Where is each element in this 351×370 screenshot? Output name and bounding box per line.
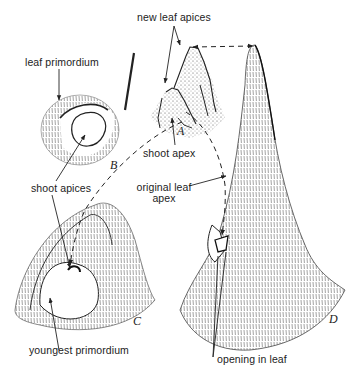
panel-b-drawing	[41, 95, 119, 165]
label-opening-in-leaf: opening in leaf	[217, 354, 287, 365]
panel-letter-c: C	[133, 314, 141, 329]
panel-letter-b: B	[110, 158, 117, 173]
label-youngest-primordium: youngest primordium	[29, 345, 129, 356]
panel-a-drawing	[150, 47, 225, 138]
label-leaf-primordium: leaf primordium	[25, 57, 99, 68]
label-new-leaf-apices: new leaf apices	[137, 12, 211, 23]
panel-c-drawing	[15, 203, 155, 330]
panel-letter-d: D	[329, 312, 338, 327]
label-shoot-apices: shoot apices	[31, 183, 91, 194]
scale-bar	[125, 53, 134, 110]
panel-letter-a: A	[177, 124, 184, 139]
label-original-leaf-apex: original leaf apex	[133, 182, 195, 204]
label-original-leaf-apex-line2: apex	[133, 193, 195, 204]
label-shoot-apex: shoot apex	[143, 148, 195, 159]
